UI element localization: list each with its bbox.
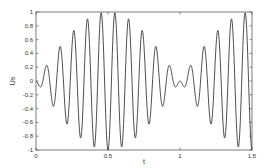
y-tick-label: -0.6 xyxy=(23,119,34,125)
y-tick-label: -0.4 xyxy=(23,106,34,112)
y-tick-label: 0.8 xyxy=(25,23,34,29)
y-tick-label: 0.2 xyxy=(25,64,34,70)
plot-area xyxy=(36,12,252,150)
x-tick-label: 1.5 xyxy=(248,153,257,159)
y-tick-label: 0.6 xyxy=(25,37,34,43)
y-axis-label: Us xyxy=(9,76,16,85)
y-tick-label: -0.8 xyxy=(23,133,34,139)
y-tick-label: -1 xyxy=(28,147,34,153)
line-chart: -1-0.8-0.6-0.4-0.200.20.40.60.81 00.511.… xyxy=(0,0,267,168)
y-tick-label: 0 xyxy=(30,78,34,84)
x-tick-label: 0.5 xyxy=(104,153,113,159)
y-tick-label: -0.2 xyxy=(23,92,34,98)
x-tick-label: 1 xyxy=(178,153,182,159)
x-tick-label: 0 xyxy=(34,153,38,159)
y-tick-label: 0.4 xyxy=(25,50,34,56)
y-tick-label: 1 xyxy=(30,9,34,15)
x-axis-label: t xyxy=(143,158,145,165)
